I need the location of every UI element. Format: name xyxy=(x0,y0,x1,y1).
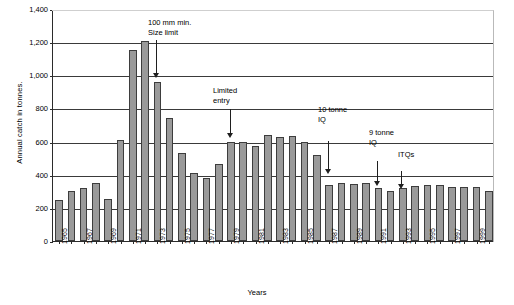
y-tick-label: 800 xyxy=(14,105,48,113)
bar xyxy=(460,187,468,241)
bar xyxy=(141,41,149,241)
y-tick-mark xyxy=(50,242,53,243)
bar xyxy=(239,142,247,241)
y-tick-mark xyxy=(50,143,53,144)
bar xyxy=(227,142,235,241)
bar xyxy=(68,191,76,241)
bar xyxy=(276,137,284,241)
annotation-line: ITQs xyxy=(398,150,414,160)
bar xyxy=(166,118,174,241)
annotation-arrow-size-limit xyxy=(153,40,160,78)
annotation-label-itqs: ITQs xyxy=(398,150,414,160)
annotation-label-iq-10: 10 tonneIQ xyxy=(318,105,347,124)
bar xyxy=(92,183,100,241)
annotation-line: entry xyxy=(213,96,237,106)
bar xyxy=(387,191,395,241)
arrow-head-icon xyxy=(398,184,404,189)
bar xyxy=(215,164,223,241)
bar xyxy=(301,142,309,241)
gridline xyxy=(53,43,494,44)
x-tick-label: 1981 xyxy=(258,228,265,244)
annotation-label-size-limit: 100 mm min.Size limit xyxy=(148,18,191,37)
x-axis-tick-labels: 1965196719691971197319751977197919811983… xyxy=(52,244,494,284)
bar xyxy=(252,146,260,241)
plot-area xyxy=(52,10,494,242)
bar xyxy=(289,136,297,241)
x-tick-label: 1993 xyxy=(405,228,412,244)
bar xyxy=(411,186,419,241)
annotation-line: Limited xyxy=(213,86,237,96)
y-tick-mark xyxy=(50,43,53,44)
x-tick-label: 1995 xyxy=(429,228,436,244)
annotation-line: 9 tonne xyxy=(369,128,394,138)
annotation-arrow-limited-entry xyxy=(227,109,234,138)
chart-title-ghost xyxy=(0,0,514,3)
x-tick-label: 1983 xyxy=(282,228,289,244)
gridline xyxy=(53,76,494,77)
annotation-line: 100 mm min. xyxy=(148,18,191,28)
gridline xyxy=(53,109,494,110)
y-tick-label: 600 xyxy=(14,139,48,147)
annotation-arrow-iq-9 xyxy=(374,161,381,186)
annotation-label-iq-9: 9 tonneIQ xyxy=(369,128,394,147)
arrow-shaft xyxy=(328,141,329,169)
arrow-shaft xyxy=(230,109,231,133)
bar xyxy=(338,183,346,241)
annotation-line: IQ xyxy=(318,115,347,125)
bar-chart: Annual catch in tonnes. 02004006008001,0… xyxy=(0,0,514,305)
x-tick-label: 1975 xyxy=(184,228,191,244)
y-axis-tick-labels: 02004006008001,0001,2001,400 xyxy=(10,0,48,305)
arrow-head-icon xyxy=(153,73,159,78)
annotation-label-limited-entry: Limitedentry xyxy=(213,86,237,105)
bar xyxy=(436,185,444,241)
bar xyxy=(117,140,125,241)
x-tick-label: 1965 xyxy=(61,228,68,244)
x-tick-label: 1977 xyxy=(208,228,215,244)
bar xyxy=(190,173,198,241)
x-tick-label: 1989 xyxy=(356,228,363,244)
bar xyxy=(129,50,137,241)
annotation-line: Size limit xyxy=(148,28,191,38)
y-tick-label: 1,200 xyxy=(14,39,48,47)
arrow-head-icon xyxy=(325,169,331,174)
y-tick-label: 0 xyxy=(14,238,48,246)
bar xyxy=(313,155,321,241)
y-tick-mark xyxy=(50,176,53,177)
x-tick-label: 1967 xyxy=(86,228,93,244)
x-tick-label: 1999 xyxy=(479,228,486,244)
bar xyxy=(154,82,162,241)
y-tick-mark xyxy=(50,209,53,210)
arrow-shaft xyxy=(401,171,402,185)
annotation-arrow-itqs xyxy=(398,171,405,190)
arrow-head-icon xyxy=(374,181,380,186)
y-tick-label: 1,400 xyxy=(14,6,48,14)
x-tick-label: 1979 xyxy=(233,228,240,244)
y-tick-mark xyxy=(50,109,53,110)
x-tick-label: 1987 xyxy=(331,228,338,244)
y-tick-label: 400 xyxy=(14,172,48,180)
x-tick-label: 1971 xyxy=(135,228,142,244)
bar xyxy=(362,183,370,241)
gridline xyxy=(53,10,494,11)
x-axis-title: Years xyxy=(0,288,514,297)
annotation-arrow-iq-10 xyxy=(325,141,332,174)
x-tick-label: 1997 xyxy=(454,228,461,244)
y-tick-mark xyxy=(50,10,53,11)
x-tick-label: 1985 xyxy=(307,228,314,244)
y-tick-mark xyxy=(50,76,53,77)
annotation-line: 10 tonne xyxy=(318,105,347,115)
bar xyxy=(264,135,272,241)
bar xyxy=(485,191,493,241)
arrow-head-icon xyxy=(227,133,233,138)
y-tick-label: 1,000 xyxy=(14,72,48,80)
x-tick-label: 1991 xyxy=(380,228,387,244)
arrow-shaft xyxy=(377,161,378,181)
y-tick-label: 200 xyxy=(14,205,48,213)
x-tick-label: 1969 xyxy=(110,228,117,244)
annotation-line: IQ xyxy=(369,138,394,148)
x-tick-label: 1973 xyxy=(159,228,166,244)
arrow-shaft xyxy=(156,40,157,73)
